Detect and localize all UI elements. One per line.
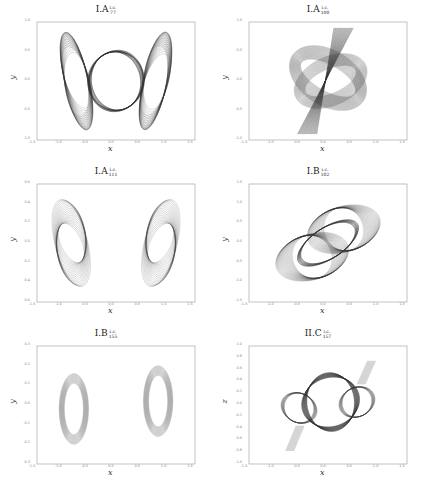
panel-p6: II.Ci.c.157-1.5-1.0-0.50.00.51.01.51.00.… (212, 324, 424, 486)
y-tick-label: -1.0 (16, 136, 30, 140)
y-tick-label: -0.4 (228, 425, 242, 429)
y-tick-label: 1.0 (16, 18, 30, 22)
y-tick-label: -0.2 (16, 440, 30, 444)
y-tick-label: -0.6 (228, 436, 242, 440)
orbit-curves (276, 205, 380, 281)
x-tick-label: 1.5 (396, 464, 408, 468)
x-tick-label: 1.0 (370, 302, 382, 306)
y-tick-label: 0.4 (16, 200, 30, 204)
y-tick-label: 1.0 (228, 200, 242, 204)
x-tick-label: 1.0 (158, 302, 170, 306)
x-axis-label: x (108, 306, 113, 315)
x-tick-label: -1.5 (238, 140, 250, 144)
y-tick-label: 0.0 (228, 401, 242, 405)
y-tick-label: 0.5 (16, 48, 30, 52)
y-tick-label: 0.2 (16, 362, 30, 366)
y-tick-label: 0.5 (228, 48, 242, 52)
axes-frame (249, 346, 407, 464)
x-tick-label: -1.5 (238, 464, 250, 468)
y-tick-label: -0.2 (16, 259, 30, 263)
panel-title: II.Ci.c.157 (212, 328, 424, 339)
panel-title-main: II.C (305, 328, 322, 338)
x-tick-label: 1.5 (184, 464, 196, 468)
plot-area (244, 344, 412, 472)
x-tick-label: -1.0 (52, 464, 64, 468)
figure-grid: I.Ai.c.77-1.5-1.0-0.50.00.51.01.51.00.50… (0, 0, 424, 486)
panel-title-main: I.A (307, 4, 320, 14)
y-tick-label: -1.0 (228, 136, 242, 140)
y-tick-label: 0.6 (228, 366, 242, 370)
panel-title: I.Ai.c.111 (0, 166, 212, 177)
x-tick-label: -1.5 (238, 302, 250, 306)
orbit-plot (244, 182, 412, 310)
y-tick-label: -0.4 (16, 278, 30, 282)
y-tick-label: 0.2 (228, 389, 242, 393)
x-axis-label: x (108, 144, 113, 153)
panel-title: I.Ai.c.100 (212, 4, 424, 15)
orbit-curves (59, 366, 173, 445)
panel-p3: I.Ai.c.111-1.5-1.0-0.50.00.51.01.50.60.4… (0, 162, 212, 324)
panel-title-main: I.B (307, 166, 320, 176)
y-tick-label: -1.5 (228, 298, 242, 302)
title-subscript: 157 (323, 334, 332, 339)
y-tick-label: 0.0 (228, 239, 242, 243)
panel-title-main: I.A (95, 166, 108, 176)
panel-title: I.Ai.c.77 (0, 4, 212, 15)
panel-title: I.Bi.c.155 (0, 328, 212, 339)
x-tick-label: 0.5 (343, 464, 355, 468)
x-tick-label: -1.0 (52, 302, 64, 306)
x-tick-label: 1.5 (396, 140, 408, 144)
x-tick-label: -0.5 (79, 140, 91, 144)
y-tick-label: -0.2 (228, 413, 242, 417)
y-tick-label: 0.5 (228, 219, 242, 223)
y-axis-label: y (8, 399, 17, 404)
title-subscript: 155 (109, 334, 118, 339)
y-tick-label: 1.0 (228, 18, 242, 22)
panel-title: I.Bi.c.102 (212, 166, 424, 177)
x-tick-label: -1.0 (52, 140, 64, 144)
x-axis-label: x (108, 468, 113, 477)
x-tick-label: 1.5 (184, 302, 196, 306)
y-tick-label: 0.0 (16, 77, 30, 81)
plot-area (244, 182, 412, 310)
title-subscript: 111 (109, 172, 118, 177)
x-tick-label: -1.0 (264, 140, 276, 144)
plot-area (32, 344, 200, 472)
y-axis-label: y (220, 75, 229, 80)
y-axis-label: y (8, 75, 17, 80)
orbit-plot (32, 182, 200, 310)
orbit-curves (60, 32, 172, 130)
x-tick-label: -0.5 (79, 302, 91, 306)
orbit-plot (244, 344, 412, 472)
y-tick-label: 0.2 (16, 219, 30, 223)
axes-frame (37, 184, 195, 302)
y-tick-label: 1.5 (228, 180, 242, 184)
x-tick-label: -0.5 (79, 464, 91, 468)
axes-frame (249, 22, 407, 140)
y-tick-label: 0.3 (16, 342, 30, 346)
y-axis-label: y (8, 237, 17, 242)
x-tick-label: -0.5 (291, 464, 303, 468)
x-tick-label: 0.5 (131, 302, 143, 306)
x-tick-label: 0.5 (343, 140, 355, 144)
y-tick-label: 0.0 (16, 401, 30, 405)
y-tick-label: -0.8 (228, 448, 242, 452)
orbit-curves (52, 200, 180, 287)
orbit-plot (32, 20, 200, 148)
plot-area (32, 20, 200, 148)
title-subscript: 100 (321, 10, 330, 15)
x-tick-label: 1.5 (184, 140, 196, 144)
orbit-curves (281, 361, 376, 451)
panel-p5: I.Bi.c.155-1.5-1.0-0.50.00.51.01.50.30.2… (0, 324, 212, 486)
panel-p1: I.Ai.c.77-1.5-1.0-0.50.00.51.01.51.00.50… (0, 0, 212, 162)
y-tick-label: 1.0 (228, 342, 242, 346)
orbit-curves (289, 28, 367, 134)
x-tick-label: -1.0 (264, 464, 276, 468)
orbit-plot (32, 344, 200, 472)
axes-frame (37, 22, 195, 140)
y-tick-label: 0.4 (228, 377, 242, 381)
panel-title-main: I.B (95, 328, 108, 338)
x-tick-label: -1.5 (26, 464, 38, 468)
x-tick-label: 1.5 (396, 302, 408, 306)
x-tick-label: 1.0 (158, 140, 170, 144)
